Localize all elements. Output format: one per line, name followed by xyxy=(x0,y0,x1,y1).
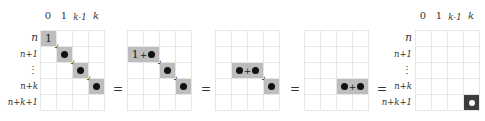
row-label-vdots: ⋮ xyxy=(0,64,38,75)
row-label-n: n xyxy=(374,31,412,43)
dot-icon xyxy=(61,51,68,58)
row-label-vdots: ⋮ xyxy=(374,64,412,75)
dot-icon xyxy=(357,83,364,90)
dot-icon xyxy=(236,67,243,74)
plus-sign: + xyxy=(244,66,252,76)
row-label-n-plus-1: n+1 xyxy=(0,49,38,59)
dot-icon xyxy=(180,83,187,90)
panel-4-grid xyxy=(304,30,369,111)
one-label: 1 xyxy=(45,32,52,45)
row-label-n: n xyxy=(0,31,38,43)
col-label-1: 1 xyxy=(56,10,72,21)
col-label-k: k xyxy=(88,10,104,21)
row-label-n-plus-k: n+k xyxy=(374,81,412,91)
col-label-k: k xyxy=(463,10,479,21)
plus-sign: + xyxy=(349,82,357,92)
col-label-1: 1 xyxy=(431,10,447,21)
dot-icon xyxy=(148,51,155,58)
col-label-k-1: k-1 xyxy=(447,12,463,22)
dot-icon xyxy=(77,67,84,74)
col-label-0: 0 xyxy=(40,10,56,21)
dot-icon xyxy=(268,83,275,90)
panel-2-cell-dot xyxy=(176,79,191,94)
row-label-n-plus-1: n+1 xyxy=(374,49,412,59)
row-label-n-plus-k: n+k xyxy=(0,81,38,91)
row-label-n-plus-k-plus-1: n+k+1 xyxy=(0,97,38,107)
equals-sign: = xyxy=(113,82,123,96)
col-label-0: 0 xyxy=(415,10,431,21)
panel-3-cell-dot xyxy=(264,79,279,94)
dot-icon xyxy=(93,83,100,90)
equals-sign: = xyxy=(290,82,300,96)
white-dot-icon xyxy=(469,100,475,106)
equals-sign: = xyxy=(201,82,211,96)
panel-2-cell-one-plus-dot: 1+ xyxy=(128,47,159,62)
panel-5-cell-result xyxy=(464,95,479,110)
dot-icon xyxy=(164,67,171,74)
panel-4-cell-dot-plus-dot: + xyxy=(337,79,368,94)
panel-3-cell-dot-plus-dot: + xyxy=(232,63,263,78)
dot-icon xyxy=(341,83,348,90)
col-label-k-1: k-1 xyxy=(72,12,88,22)
row-label-n-plus-k-plus-1: n+k+1 xyxy=(374,97,412,107)
plus-sign: + xyxy=(140,50,148,60)
panel-1-cell-dot xyxy=(89,79,104,94)
one-label: 1 xyxy=(132,48,139,61)
dot-icon xyxy=(252,67,259,74)
